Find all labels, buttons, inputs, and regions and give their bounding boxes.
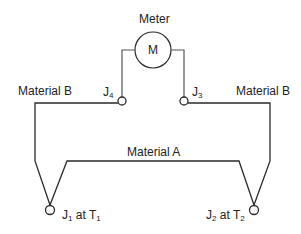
wire-material-b-right: [188, 103, 270, 205]
meter-symbol: M: [148, 43, 158, 57]
junction-j4: [118, 97, 126, 105]
meter-title: Meter: [139, 12, 170, 26]
junction-j2-label: J2 at T2: [206, 208, 245, 226]
junction-j1: [46, 206, 55, 215]
wire-material-b-left: [35, 103, 118, 205]
junction-j2: [250, 206, 259, 215]
material-a-label: Material A: [127, 145, 180, 159]
material-b-right-label: Material B: [236, 84, 290, 98]
junction-j1-label: J1 at T1: [62, 208, 101, 226]
material-b-left-label: Material B: [18, 84, 72, 98]
circuit-drawing: [0, 0, 301, 234]
meter-lead-right: [171, 50, 184, 97]
wire-material-a: [50, 161, 254, 205]
junction-j3: [180, 97, 188, 105]
junction-j3-label: J3: [192, 85, 202, 103]
junction-j4-label: J4: [103, 85, 113, 103]
meter-lead-left: [122, 50, 135, 97]
